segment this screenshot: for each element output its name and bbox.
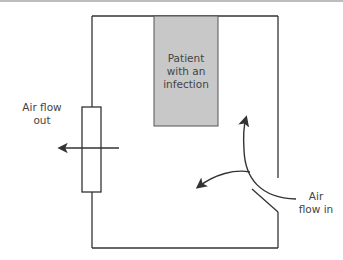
air-out-label-line-2: out: [10, 114, 74, 127]
patient-label-line-3: infection: [154, 78, 218, 91]
air-in-label-line-1: Air: [294, 190, 338, 203]
patient-label-line-2: with an: [154, 65, 218, 78]
air-in-label: Air flow in: [294, 190, 338, 216]
air-out-label-line-1: Air flow: [10, 101, 74, 114]
patient-label-line-1: Patient: [154, 52, 218, 65]
patient-label: Patient with an infection: [154, 52, 218, 91]
vent: [82, 107, 101, 192]
room-diagram: [0, 0, 343, 260]
air-in-arrow-left: [198, 171, 250, 187]
air-in-label-line-2: flow in: [294, 203, 338, 216]
air-out-label: Air flow out: [10, 101, 74, 127]
air-in-arrow-up: [244, 118, 296, 199]
